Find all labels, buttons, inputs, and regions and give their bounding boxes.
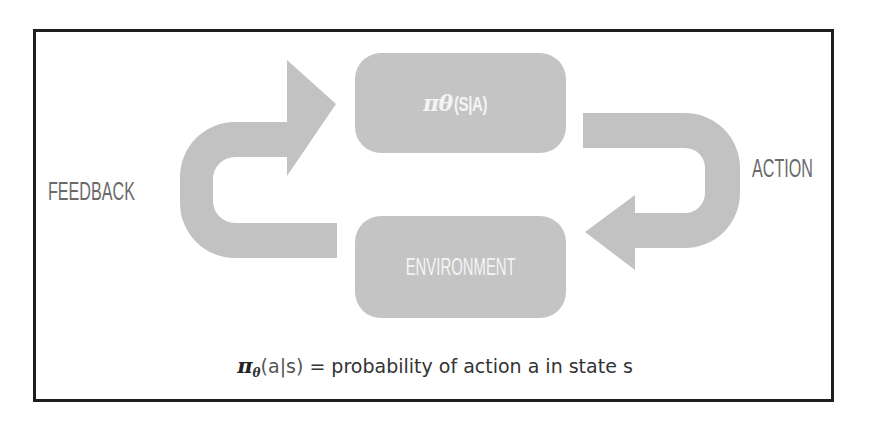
caption-pi: π bbox=[237, 353, 252, 378]
caption-text: = probability of action a in state s bbox=[303, 355, 632, 377]
environment-label: ENVIRONMENT bbox=[406, 253, 516, 281]
action-arrow-icon bbox=[583, 113, 740, 270]
policy-label: πθ(S|A) bbox=[423, 90, 498, 116]
policy-args: (S|A) bbox=[454, 93, 487, 116]
caption-expr: (a|s) bbox=[261, 355, 304, 377]
policy-node: πθ(S|A) bbox=[355, 53, 566, 153]
action-label: ACTION bbox=[752, 153, 813, 184]
theta-symbol: θ bbox=[439, 90, 453, 116]
pi-symbol: π bbox=[423, 90, 439, 116]
feedback-arrow-icon bbox=[180, 60, 337, 258]
feedback-label: FEEDBACK bbox=[48, 176, 135, 207]
policy-caption: πθ(a|s) = probability of action a in sta… bbox=[0, 353, 870, 380]
environment-node: ENVIRONMENT bbox=[355, 216, 566, 318]
caption-theta: θ bbox=[253, 366, 261, 380]
